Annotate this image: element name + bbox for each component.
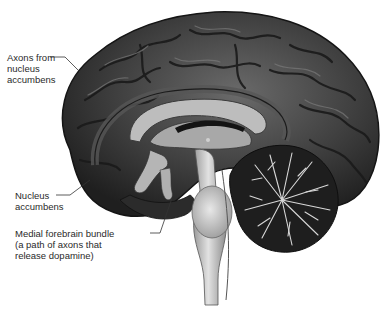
label-nucleus-accumbens: Nucleus accumbens <box>15 190 64 212</box>
pons <box>192 186 232 238</box>
label-line: Medial forebrain bundle <box>15 228 114 239</box>
label-line: nucleus <box>7 63 56 74</box>
brain-sagittal-illustration <box>0 0 385 312</box>
label-line: release dopamine) <box>15 250 114 261</box>
label-axons-from-nucleus-accumbens: Axons from nucleus accumbens <box>7 52 56 85</box>
label-line: accumbens <box>15 201 64 212</box>
label-medial-forebrain-bundle: Medial forebrain bundle (a path of axons… <box>15 228 114 261</box>
label-line: (a path of axons that <box>15 239 114 250</box>
label-line: Axons from <box>7 52 56 63</box>
label-line: accumbens <box>7 74 56 85</box>
label-line: Nucleus <box>15 190 64 201</box>
cerebellum <box>230 145 339 252</box>
